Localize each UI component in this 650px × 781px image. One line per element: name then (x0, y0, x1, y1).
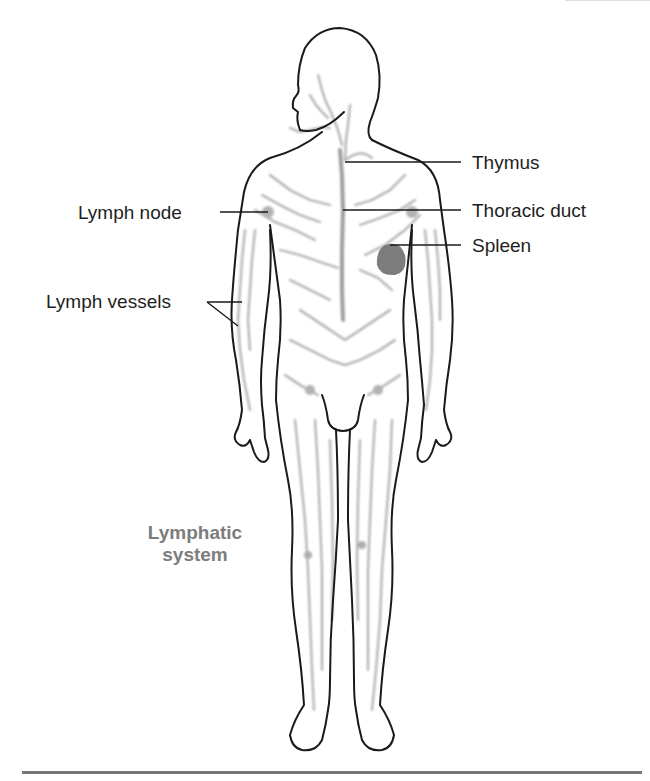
bottom-rule (22, 771, 642, 774)
label-thoracic-duct: Thoracic duct (472, 201, 586, 220)
lymph-network (238, 75, 440, 710)
title-line-1: Lymphatic (130, 522, 260, 544)
body-outline (232, 28, 453, 750)
lymph-vessels-leader-2 (207, 302, 238, 326)
label-thymus: Thymus (472, 153, 540, 172)
label-lymph-node: Lymph node (78, 203, 182, 222)
diagram-title: Lymphatic system (130, 522, 260, 566)
label-lymph-vessels: Lymph vessels (46, 292, 171, 311)
label-spleen: Spleen (472, 236, 531, 255)
spleen-organ (377, 244, 406, 275)
body-illustration (0, 0, 650, 781)
lymphatic-system-figure: Thymus Thoracic duct Spleen Lymph node L… (0, 0, 650, 781)
title-line-2: system (130, 544, 260, 566)
